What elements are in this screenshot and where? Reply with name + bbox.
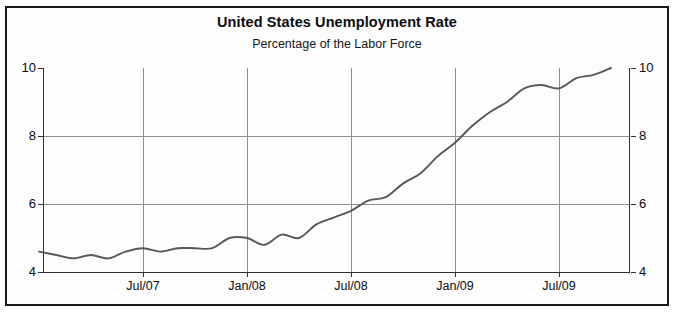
chart-title: United States Unemployment Rate (0, 14, 674, 30)
x-tick-jul07 (143, 272, 144, 277)
y-axis-label-right-4: 4 (639, 265, 669, 278)
y-tick-right-4 (631, 272, 636, 273)
x-axis-label-jan09: Jan/09 (420, 280, 490, 293)
y-axis-label-left-10: 10 (10, 61, 36, 74)
x-tick-jan09 (455, 272, 456, 277)
y-tick-right-6 (631, 204, 636, 205)
y-axis-label-right-8: 8 (639, 129, 669, 142)
plot-area (43, 68, 630, 272)
x-axis-label-jan08: Jan/08 (212, 280, 282, 293)
y-axis-label-left-4: 4 (10, 265, 36, 278)
x-tick-jul08 (351, 272, 352, 277)
y-axis-label-right-10: 10 (639, 61, 669, 74)
x-axis-spine (43, 272, 630, 273)
y-axis-label-right-6: 6 (639, 197, 669, 210)
chart-figure: United States Unemployment Rate Percenta… (0, 0, 674, 315)
y-axis-label-left-6: 6 (10, 197, 36, 210)
x-axis-label-jul09: Jul/09 (524, 280, 594, 293)
x-axis-label-jul08: Jul/08 (316, 280, 386, 293)
y-axis-label-left-8: 8 (10, 129, 36, 142)
unemployment-line-series (43, 68, 630, 272)
x-tick-jan08 (247, 272, 248, 277)
x-axis-label-jul07: Jul/07 (108, 280, 178, 293)
y-tick-right-10 (631, 68, 636, 69)
y-tick-right-8 (631, 136, 636, 137)
chart-subtitle: Percentage of the Labor Force (0, 37, 674, 51)
series-path-unemployment (39, 68, 611, 258)
x-tick-jul09 (559, 272, 560, 277)
